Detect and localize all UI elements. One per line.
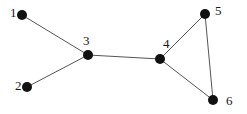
graph-edge-3-4: [88, 55, 160, 59]
graph-edge-5-6: [205, 14, 213, 100]
graph-node-label-1: 1: [10, 6, 17, 19]
graph-edge-2-3: [27, 55, 88, 87]
graph-node-label-4: 4: [163, 37, 170, 50]
graph-canvas: [0, 0, 247, 114]
graph-node-4: [155, 54, 165, 64]
graph-node-3: [83, 50, 93, 60]
graph-node-label-2: 2: [15, 79, 22, 92]
graph-node-2: [22, 82, 32, 92]
graph-node-label-5: 5: [215, 4, 222, 17]
graph-diagram: 123456: [0, 0, 247, 114]
graph-node-label-3: 3: [83, 34, 90, 47]
graph-edge-1-3: [22, 15, 88, 55]
graph-edge-4-6: [160, 59, 213, 100]
graph-node-5: [200, 9, 210, 19]
graph-node-6: [208, 95, 218, 105]
graph-node-label-6: 6: [226, 94, 233, 107]
graph-node-1: [17, 10, 27, 20]
edge-layer: [22, 14, 213, 100]
